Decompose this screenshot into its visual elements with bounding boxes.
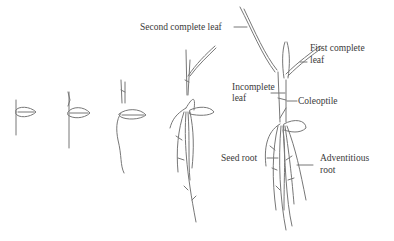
label-adventitious-root-line1: Adventitious [320, 153, 369, 163]
label-first-complete-leaf-line2: leaf [310, 55, 324, 65]
seedling-stage-4 [170, 46, 216, 222]
label-adventitious-root-line2: root [320, 165, 335, 175]
seedling-stage-5 [240, 7, 322, 230]
seedling-stage-3 [117, 80, 146, 173]
seedling-stage-1 [16, 100, 36, 135]
seedling-stage-2 [68, 92, 90, 148]
label-coleoptile: Coleoptile [298, 96, 338, 106]
seedling-diagram: Second complete leaf First complete leaf… [0, 0, 394, 241]
label-second-complete-leaf: Second complete leaf [140, 22, 222, 32]
label-incomplete-leaf-line1: Incomplete [232, 82, 275, 92]
label-incomplete-leaf-line2: leaf [232, 93, 246, 103]
label-seed-root: Seed root [221, 153, 257, 163]
seedling-illustration [0, 0, 394, 241]
label-first-complete-leaf-line1: First complete [310, 43, 365, 53]
